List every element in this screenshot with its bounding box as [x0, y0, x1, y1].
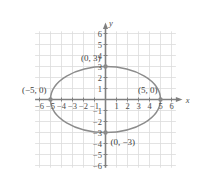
- x-tick-label: −2: [79, 101, 88, 111]
- y-tick-label: −5: [93, 150, 102, 160]
- y-tick-label: −3: [93, 128, 102, 138]
- y-tick-label: −6: [93, 161, 102, 171]
- x-tick-label: 2: [125, 101, 129, 111]
- coordinate-plane-svg: −6−5−4−3−2−1123456654321−1−2−3−4−5−6xy(−…: [0, 0, 197, 184]
- point-label-left-vertex: (−5, 0): [22, 85, 47, 95]
- y-tick-label: 3: [98, 62, 102, 72]
- y-tick-label: 5: [98, 40, 102, 50]
- vertex-point-top-vertex: [103, 64, 107, 68]
- x-tick-label: −6: [35, 101, 44, 111]
- y-tick-label: 6: [98, 29, 102, 39]
- vertex-point-left-vertex: [48, 97, 52, 101]
- x-tick-label: 1: [114, 101, 118, 111]
- y-axis-label: y: [108, 18, 113, 28]
- y-tick-label: 2: [98, 73, 102, 83]
- vertex-point-bottom-vertex: [103, 130, 107, 134]
- x-tick-label: 5: [158, 101, 162, 111]
- x-tick-label: 3: [136, 101, 140, 111]
- y-tick-label: −1: [93, 106, 102, 116]
- x-tick-label: −3: [68, 101, 77, 111]
- x-tick-label: 4: [147, 101, 152, 111]
- y-tick-label: −2: [93, 117, 102, 127]
- x-tick-labels: −6−5−4−3−2−1123456: [35, 101, 174, 111]
- y-tick-label: −4: [93, 139, 103, 149]
- x-axis-arrowhead: [176, 97, 183, 102]
- point-label-right-vertex: (5, 0): [138, 85, 158, 95]
- x-tick-label: −5: [46, 101, 55, 111]
- ellipse-graph-figure: −6−5−4−3−2−1123456654321−1−2−3−4−5−6xy(−…: [0, 0, 197, 184]
- x-tick-label: −4: [57, 101, 67, 111]
- point-label-bottom-vertex: (0, −3): [111, 137, 136, 147]
- point-label-top-vertex: (0, 3): [81, 53, 101, 63]
- vertex-point-right-vertex: [158, 97, 162, 101]
- y-tick-label: 1: [98, 84, 102, 94]
- x-tick-label: 6: [169, 101, 173, 111]
- y-axis-arrowhead: [103, 23, 108, 30]
- x-axis-label: x: [185, 95, 190, 105]
